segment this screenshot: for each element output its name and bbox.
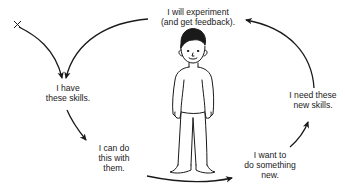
- node-want-new-line-3: new.: [235, 170, 305, 180]
- node-want-new: I want to do something new.: [235, 150, 305, 180]
- node-need-skills-line-1: I need these: [282, 90, 344, 100]
- person-illustration: [170, 29, 215, 173]
- skills-cycle-diagram: I will experiment (and get feedback). I …: [0, 0, 345, 189]
- arrow-can-do-to-want-new: [147, 176, 232, 182]
- node-have-skills-line-2: these skills.: [28, 93, 108, 103]
- node-need-skills: I need these new skills.: [282, 90, 344, 110]
- arrow-need-skills-to-experiment: [246, 20, 314, 88]
- node-want-new-line-2: do something: [235, 160, 305, 170]
- node-experiment-line-1: I will experiment: [150, 7, 246, 17]
- arrow-start-to-have-skills: [19, 27, 62, 78]
- node-can-do-line-1: I can do: [84, 143, 144, 153]
- node-experiment-line-2: (and get feedback).: [150, 17, 246, 27]
- node-can-do-line-2: this with: [84, 153, 144, 163]
- arrow-have-skills-to-can-do: [67, 110, 86, 140]
- node-have-skills: I have these skills.: [28, 83, 108, 103]
- node-need-skills-line-2: new skills.: [282, 100, 344, 110]
- arrow-want-new-to-need-skills: [290, 122, 308, 147]
- arrow-experiment-to-have-skills: [66, 19, 148, 78]
- node-experiment: I will experiment (and get feedback).: [150, 7, 246, 27]
- node-have-skills-line-1: I have: [28, 83, 108, 93]
- node-want-new-line-1: I want to: [235, 150, 305, 160]
- node-can-do-line-3: them.: [84, 163, 144, 173]
- node-can-do: I can do this with them.: [84, 143, 144, 173]
